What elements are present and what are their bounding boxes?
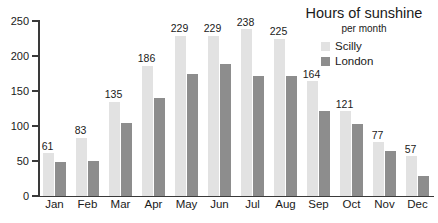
y-axis-tick-label: 250 [11, 15, 29, 26]
bar-group: 135 [104, 21, 137, 196]
bar-group: 61 [38, 21, 71, 196]
bar-london-feb [88, 161, 99, 196]
x-axis-label-mar: Mar [104, 199, 137, 211]
bar-scilly-aug [274, 39, 285, 197]
x-axis-label-dec: Dec [401, 199, 434, 211]
legend-item-scilly: Scilly [321, 41, 435, 53]
x-axis-label-feb: Feb [71, 199, 104, 211]
legend-label: Scilly [335, 41, 362, 53]
x-axis-labels: JanFebMarAprMayJunJulAugSepOctNovDec [38, 199, 434, 211]
sunshine-bar-chart: 050100150200250 618313518622922923822516… [0, 0, 438, 223]
x-axis-label-jun: Jun [203, 199, 236, 211]
legend-block: Hours of sunshine per month ScillyLondon [293, 6, 435, 70]
x-axis-label-may: May [170, 199, 203, 211]
legend-item-london: London [321, 56, 435, 68]
bar-scilly-jun [208, 36, 219, 196]
bar-group: 229 [203, 21, 236, 196]
bar-scilly-nov [373, 142, 384, 196]
bar-value-label: 77 [372, 130, 384, 141]
legend-items: ScillyLondon [293, 41, 435, 67]
bar-london-nov [385, 151, 396, 197]
bar-london-dec [418, 176, 429, 196]
bar-london-mar [121, 123, 132, 197]
bar-scilly-sep [307, 81, 318, 196]
y-axis-tick-label: 100 [11, 120, 29, 131]
legend-swatch-icon [321, 42, 330, 51]
y-axis-tick-label: 0 [23, 190, 29, 201]
legend-swatch-icon [321, 57, 330, 66]
chart-title: Hours of sunshine [293, 6, 435, 21]
bar-scilly-apr [142, 66, 153, 196]
bar-london-oct [352, 124, 363, 196]
bar-scilly-jan [43, 153, 54, 196]
bar-scilly-feb [76, 138, 87, 196]
bar-value-label: 57 [405, 144, 417, 155]
bar-london-jan [55, 162, 66, 196]
bar-value-label: 225 [270, 26, 288, 37]
bar-value-label: 61 [42, 141, 54, 152]
bar-group: 186 [137, 21, 170, 196]
bar-london-jul [253, 76, 264, 196]
bar-scilly-oct [340, 111, 351, 196]
x-axis-label-apr: Apr [137, 199, 170, 211]
bar-group: 238 [236, 21, 269, 196]
bar-scilly-mar [109, 102, 120, 197]
bar-group: 229 [170, 21, 203, 196]
y-axis-tick-label: 150 [11, 85, 29, 96]
bar-value-label: 135 [105, 89, 123, 100]
bar-value-label: 238 [237, 17, 255, 28]
x-axis-label-jul: Jul [236, 199, 269, 211]
bar-london-jun [220, 64, 231, 196]
x-axis-label-aug: Aug [269, 199, 302, 211]
bar-value-label: 229 [171, 23, 189, 34]
bar-london-may [187, 74, 198, 197]
bar-value-label: 121 [336, 99, 354, 110]
bar-value-label: 186 [138, 53, 156, 64]
bar-group: 83 [71, 21, 104, 196]
chart-subtitle: per month [293, 23, 435, 34]
x-axis-label-jan: Jan [38, 199, 71, 211]
bar-london-apr [154, 98, 165, 196]
legend-label: London [335, 56, 373, 68]
bar-scilly-jul [241, 29, 252, 196]
x-axis-label-sep: Sep [302, 199, 335, 211]
bar-value-label: 83 [75, 125, 87, 136]
bar-london-aug [286, 76, 297, 196]
bar-value-label: 229 [204, 23, 222, 34]
bar-london-sep [319, 111, 330, 196]
bar-value-label: 164 [303, 69, 321, 80]
x-axis-label-nov: Nov [368, 199, 401, 211]
bar-scilly-dec [406, 156, 417, 196]
x-axis-label-oct: Oct [335, 199, 368, 211]
bar-scilly-may [175, 36, 186, 196]
y-axis-tick-label: 200 [11, 50, 29, 61]
y-axis-tick-label: 50 [17, 155, 29, 166]
